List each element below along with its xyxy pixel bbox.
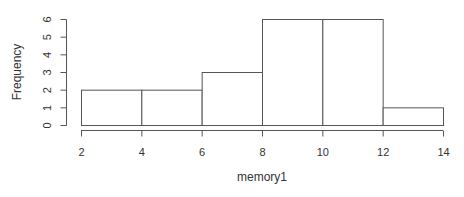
y-tick-label: 2 [41,87,53,93]
histogram-bar [82,90,142,125]
histogram-bar [263,20,323,126]
x-axis: 2468101214 [78,131,449,159]
x-tick-label: 12 [377,146,389,158]
x-tick-label: 8 [259,146,265,158]
y-tick-label: 1 [41,105,53,111]
y-tick-label: 3 [41,69,53,75]
histogram-bar [142,90,202,125]
histogram-bar [383,108,443,126]
x-tick-label: 10 [317,146,329,158]
y-tick-label: 6 [41,16,53,22]
x-axis-label: memory1 [237,170,287,184]
y-tick-label: 4 [41,52,53,58]
x-tick-label: 2 [78,146,84,158]
histogram-bar [323,20,383,126]
y-tick-label: 0 [41,122,53,128]
histogram-bar [202,73,262,126]
y-tick-label: 5 [41,34,53,40]
y-axis: 0123456 [41,16,67,128]
y-axis-label: Frequency [10,44,24,101]
x-tick-label: 4 [139,146,145,158]
histogram-chart: 2468101214 0123456 memory1 Frequency [0,0,464,197]
histogram-bars [82,20,444,126]
x-tick-label: 14 [437,146,449,158]
x-tick-label: 6 [199,146,205,158]
